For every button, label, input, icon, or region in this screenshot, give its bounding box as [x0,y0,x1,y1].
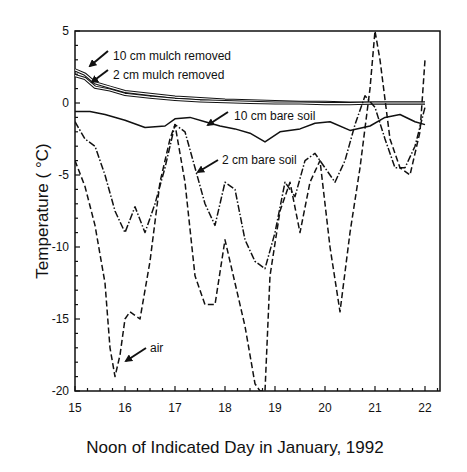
x-tick-label: 22 [418,401,432,415]
arrow-2cm-bare [198,160,218,172]
y-tick-label: -15 [52,312,70,326]
y-tick-label: -5 [58,168,69,182]
y-tick-label: 0 [62,96,69,110]
x-tick-label: 17 [168,401,182,415]
plot-frame [75,31,440,391]
x-tick-label: 19 [268,401,282,415]
series-air [75,31,425,391]
y-tick-label: -10 [52,240,70,254]
annotations: 10 cm mulch removed 2 cm mulch removed 1… [90,49,315,361]
x-axis-title: Noon of Indicated Day in January, 1992 [86,438,383,457]
label-10cm-mulch-removed: 10 cm mulch removed [113,49,231,63]
x-tick-label: 18 [218,401,232,415]
label-2cm-bare-soil: 2 cm bare soil [222,153,297,167]
y-tick-label: 5 [62,24,69,38]
label-air: air [150,341,163,355]
label-2cm-mulch-removed: 2 cm mulch removed [113,68,224,82]
x-tick-label: 20 [318,401,332,415]
arrow-10cm-mulch [90,51,108,66]
y-tick-label: -20 [52,384,70,398]
data-series [75,31,425,391]
y-axis-title: Temperature ( °C) [33,143,52,278]
x-tick-label: 21 [368,401,382,415]
arrow-10cm-bare [208,112,228,125]
label-10cm-bare-soil: 10 cm bare soil [234,109,315,123]
arrow-air [126,348,146,361]
x-tick-label: 15 [68,401,82,415]
arrow-2cm-mulch [92,70,108,82]
temperature-chart: 50-5-10-15-20 1516171819202122 10 cm mul… [0,0,467,472]
x-tick-label: 16 [118,401,132,415]
